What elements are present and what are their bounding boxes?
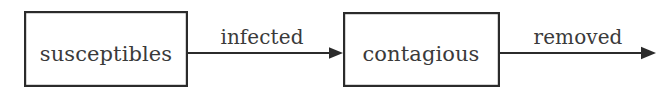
diagram-canvas: susceptibles infected contagious removed (0, 0, 672, 97)
edge-removed[interactable]: removed (500, 25, 656, 59)
edge-infected[interactable]: infected (188, 25, 343, 59)
edge-removed-label: removed (533, 25, 622, 49)
node-contagious[interactable]: contagious (344, 13, 499, 86)
node-susceptibles[interactable]: susceptibles (25, 12, 187, 86)
edge-infected-arrowhead-icon (329, 47, 343, 59)
node-contagious-label: contagious (363, 42, 480, 66)
node-susceptibles-label: susceptibles (40, 42, 172, 66)
edge-infected-label: infected (220, 25, 303, 49)
edge-removed-arrowhead-icon (641, 47, 656, 59)
flow-diagram-svg: susceptibles infected contagious removed (0, 0, 672, 97)
